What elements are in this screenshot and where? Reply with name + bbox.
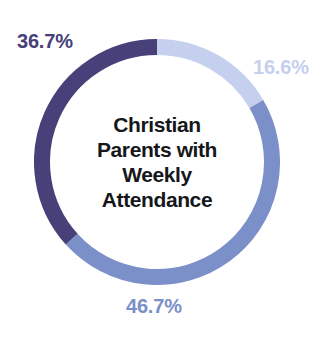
donut-svg	[34, 39, 280, 285]
donut-ring: Christian Parents with Weekly Attendance	[34, 39, 280, 285]
slice-label-36-7: 36.7%	[17, 30, 73, 53]
donut-segment-2[interactable]	[72, 104, 272, 277]
donut-segment-3[interactable]	[42, 47, 157, 239]
donut-chart-figure: Christian Parents with Weekly Attendance…	[0, 0, 333, 341]
slice-label-16-6: 16.6%	[253, 56, 309, 79]
donut-segment-1[interactable]	[157, 47, 256, 104]
slice-label-46-7: 46.7%	[126, 295, 182, 318]
